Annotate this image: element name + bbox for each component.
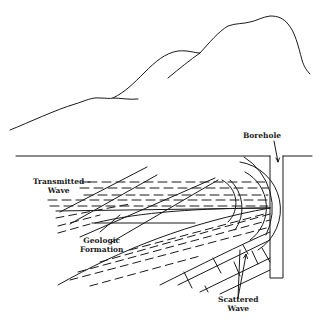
transmitted-wave-line2: Wave <box>33 187 84 196</box>
borehole-leader <box>274 141 280 162</box>
transmitted-wave-label: Transmitted Wave <box>33 178 84 195</box>
scattered-wave-line2: Wave <box>218 305 259 314</box>
borehole-label-text: Borehole <box>243 131 281 140</box>
geologic-formation-label: Geologic Formation <box>80 237 123 254</box>
borehole-label: Borehole <box>243 132 281 141</box>
scattered-wave-leader <box>238 250 248 298</box>
mountain-profile <box>10 16 310 130</box>
brick-formation <box>178 240 270 294</box>
diagram-svg <box>0 0 322 323</box>
scattered-wave-label: Scattered Wave <box>218 296 259 313</box>
geologic-formation-line2: Formation <box>80 246 123 255</box>
geologic-diagram: Borehole Transmitted Wave Geologic Forma… <box>0 0 322 323</box>
wavefront-arcs <box>222 157 280 250</box>
diagonal-strata <box>58 167 270 285</box>
